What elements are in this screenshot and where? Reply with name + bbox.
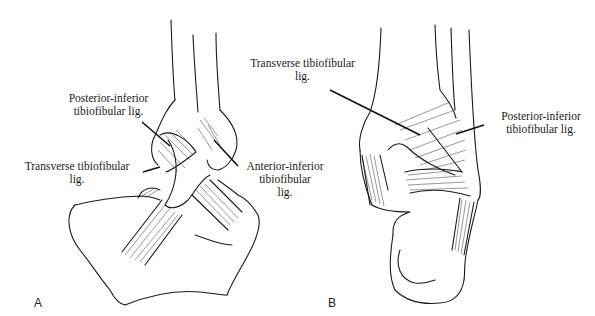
callout-b-transverse: Transverse tibiofibular lig.	[235, 57, 370, 83]
ankle-ligament-illustration	[0, 0, 595, 316]
callout-line: lig.	[12, 173, 142, 186]
callout-a-anterior-inferior: Anterior-inferior tibiofibular lig.	[235, 160, 335, 199]
callout-line: tibiofibular	[235, 173, 335, 186]
callout-line: Posterior-inferior	[489, 110, 593, 123]
panel-label-b: B	[328, 296, 336, 310]
callout-line: lig.	[235, 70, 370, 83]
callout-line: Anterior-inferior	[235, 160, 335, 173]
anatomical-figure: Posterior-inferior tibiofibular lig. Tra…	[0, 0, 595, 316]
callout-line: tibiofibular lig.	[489, 123, 593, 136]
callout-a-posterior-inferior: Posterior-inferior tibiofibular lig.	[46, 92, 171, 118]
callout-a-transverse: Transverse tibiofibular lig.	[12, 160, 142, 186]
panel-label-a: A	[34, 296, 42, 310]
callout-line: Posterior-inferior	[46, 92, 171, 105]
callout-line: Transverse tibiofibular	[235, 57, 370, 70]
callout-line: lig.	[235, 186, 335, 199]
callout-line: Transverse tibiofibular	[12, 160, 142, 173]
callout-b-posterior-inferior: Posterior-inferior tibiofibular lig.	[489, 110, 593, 136]
callout-line: tibiofibular lig.	[46, 105, 171, 118]
